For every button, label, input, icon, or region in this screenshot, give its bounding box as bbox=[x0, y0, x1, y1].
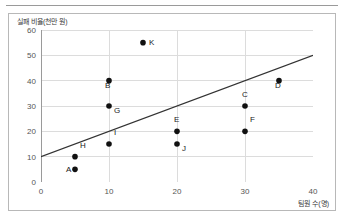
y-tick-label: 40 bbox=[14, 76, 36, 85]
x-axis-label: 팀원 수(명) bbox=[298, 198, 329, 208]
point-label-e: E bbox=[174, 115, 179, 124]
point-label-g: G bbox=[114, 106, 120, 115]
point-label-c: C bbox=[242, 90, 248, 99]
data-point-k[interactable] bbox=[140, 40, 146, 46]
data-point-f[interactable] bbox=[242, 129, 248, 135]
y-axis-label: 실패 비율(천만 원) bbox=[17, 16, 68, 26]
y-tick-label: 0 bbox=[14, 178, 36, 187]
point-label-h: H bbox=[80, 141, 86, 150]
point-label-f: F bbox=[250, 115, 255, 124]
x-tick-label: 40 bbox=[302, 187, 324, 196]
data-point-a[interactable] bbox=[72, 167, 78, 173]
data-point-j[interactable] bbox=[174, 141, 180, 147]
point-label-b: B bbox=[105, 81, 110, 90]
point-label-a: A bbox=[66, 165, 71, 174]
x-tick-label: 30 bbox=[234, 187, 256, 196]
y-tick-label: 60 bbox=[14, 26, 36, 35]
y-tick-label: 50 bbox=[14, 51, 36, 60]
x-tick-label: 20 bbox=[166, 187, 188, 196]
point-label-j: J bbox=[182, 144, 186, 153]
x-tick-label: 10 bbox=[98, 187, 120, 196]
data-point-i[interactable] bbox=[106, 141, 112, 147]
data-point-c[interactable] bbox=[242, 103, 248, 109]
plot-area: ABCDEFGHIJK0102030405060010203040 bbox=[41, 30, 313, 182]
point-label-d: D bbox=[275, 81, 281, 90]
data-point-e[interactable] bbox=[174, 129, 180, 135]
data-point-h[interactable] bbox=[72, 154, 78, 160]
point-label-k: K bbox=[149, 38, 154, 47]
y-tick-label: 20 bbox=[14, 127, 36, 136]
chart-figure-frame: 실패 비율(천만 원) 팀원 수(명) ABCDEFGHIJK010203040… bbox=[8, 13, 336, 211]
data-point-g[interactable] bbox=[106, 103, 112, 109]
scatter-plot-svg bbox=[41, 30, 313, 182]
y-tick-label: 10 bbox=[14, 152, 36, 161]
top-divider bbox=[6, 5, 338, 6]
point-label-i: I bbox=[114, 128, 116, 137]
x-tick-label: 0 bbox=[30, 187, 52, 196]
y-tick-label: 30 bbox=[14, 102, 36, 111]
